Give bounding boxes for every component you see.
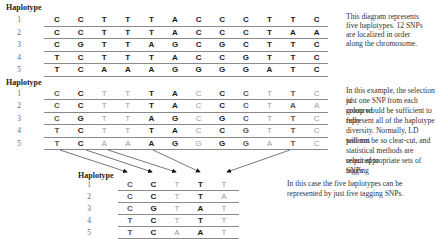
row-divider — [118, 226, 239, 227]
snp-cell: T — [171, 180, 183, 190]
arrow — [153, 150, 200, 172]
arrow — [227, 150, 290, 172]
snp-cell: C — [148, 216, 160, 226]
snp-cell: T — [218, 228, 230, 238]
row-label: 1 — [84, 180, 94, 189]
snp-cell: G — [148, 204, 160, 214]
snp-cell: C — [124, 180, 136, 190]
snp-cell: T — [195, 216, 207, 226]
row-label: 4 — [84, 216, 94, 225]
note3-line-2: represented by just five tagging SNPs. — [287, 189, 403, 199]
row-divider — [118, 202, 239, 203]
snp-cell: T — [171, 216, 183, 226]
row-divider — [118, 190, 239, 191]
snp-cell: T — [195, 180, 207, 190]
snp-cell: T — [124, 216, 136, 226]
snp-cell: A — [195, 228, 207, 238]
snp-cell: T — [171, 204, 183, 214]
snp-cell: C — [124, 204, 136, 214]
snp-cell: A — [171, 228, 183, 238]
snp-cell: A — [218, 192, 230, 202]
row-label: 5 — [84, 228, 94, 237]
snp-cell: T — [124, 228, 136, 238]
snp-cell: T — [218, 204, 230, 214]
row-divider — [118, 214, 239, 215]
snp-cell: C — [124, 192, 136, 202]
snp-cell: C — [148, 180, 160, 190]
row-label: 2 — [84, 192, 94, 201]
snp-cell: T — [218, 180, 230, 190]
snp-cell: T — [171, 192, 183, 202]
note3-line-1: In this case the five haplotypes can be — [287, 179, 402, 189]
row-label: 3 — [84, 204, 94, 213]
row-divider — [118, 238, 239, 239]
snp-cell: T — [218, 216, 230, 226]
snp-cell: C — [148, 192, 160, 202]
snp-cell: T — [195, 192, 207, 202]
table3-header: Haplotype — [78, 171, 114, 180]
snp-cell: A — [195, 204, 207, 214]
snp-cell: C — [148, 228, 160, 238]
